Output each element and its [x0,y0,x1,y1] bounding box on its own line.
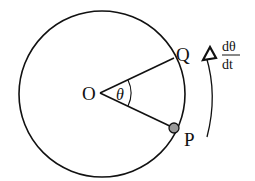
rotation-arrow-arc [206,56,212,137]
angle-arc [128,80,131,106]
label-rate-numerator: dθ [222,39,236,54]
label-q: Q [176,44,190,65]
point-p-dot [169,123,179,133]
radius-op [100,93,174,128]
radius-oq [100,58,174,93]
diagram-canvas: O θ Q P dθ dt [0,0,255,181]
rotation-arrowhead-icon [203,47,216,60]
label-p: P [184,129,195,150]
label-rate-denominator: dt [222,57,233,72]
label-theta: θ [116,86,124,103]
label-o: O [82,83,96,104]
